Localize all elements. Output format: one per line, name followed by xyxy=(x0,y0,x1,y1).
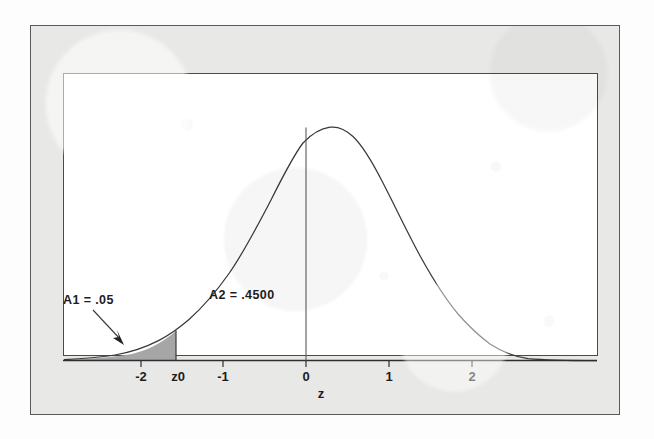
a2-annotation-label: A2 = .4500 xyxy=(209,288,275,302)
normal-curve-chart: -2 z0 -1 0 1 2 z A2 = .4500 A1 = .05 xyxy=(31,26,621,416)
figure-frame: -2 z0 -1 0 1 2 z A2 = .4500 A1 = .05 xyxy=(30,25,620,415)
tick-label-neg1: -1 xyxy=(217,369,229,384)
a1-annotation-label: A1 = .05 xyxy=(63,293,114,307)
normal-curve xyxy=(64,127,597,361)
a1-arrowhead-icon xyxy=(113,330,124,345)
tick-label-zero: 0 xyxy=(302,369,309,384)
tick-label-neg2: -2 xyxy=(135,369,147,384)
shaded-tail-region-a1 xyxy=(64,331,176,360)
tick-label-z0: z0 xyxy=(171,369,185,384)
x-axis-title: z xyxy=(318,386,325,401)
tick-label-pos2: 2 xyxy=(468,369,475,384)
scanned-page: -2 z0 -1 0 1 2 z A2 = .4500 A1 = .05 xyxy=(0,0,654,439)
tick-label-pos1: 1 xyxy=(385,369,392,384)
a1-leader-line xyxy=(93,310,121,340)
